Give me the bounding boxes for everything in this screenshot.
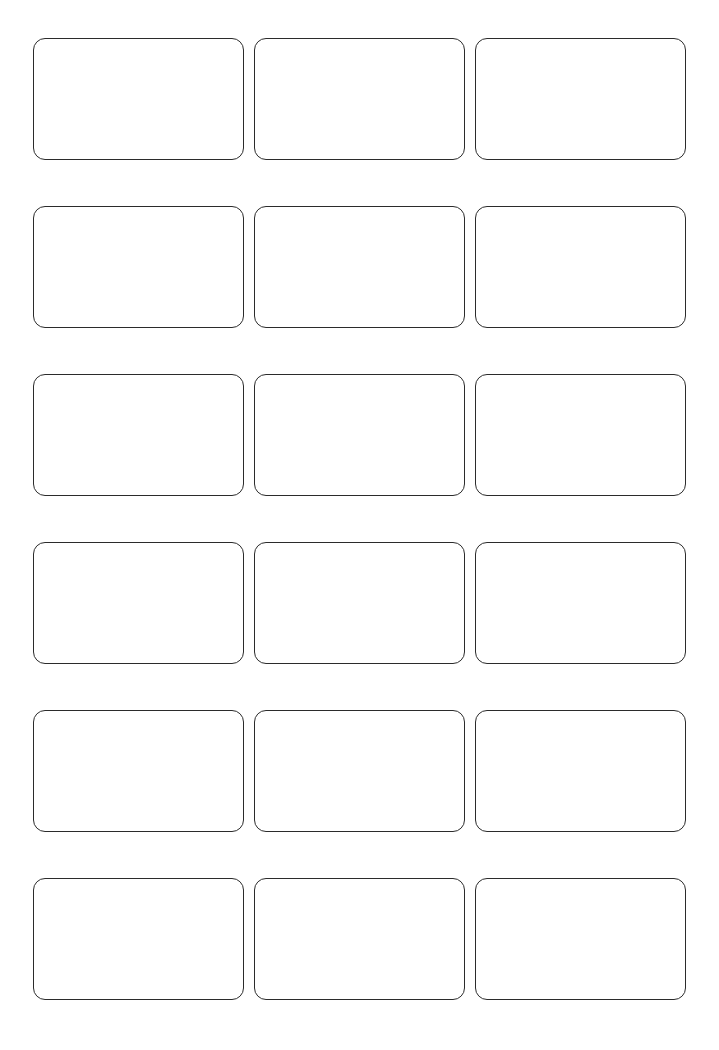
card[interactable] (475, 878, 686, 1000)
card-content (34, 879, 243, 999)
card[interactable] (475, 38, 686, 160)
card-content (255, 39, 464, 159)
card-content (476, 711, 685, 831)
card-content (255, 543, 464, 663)
card[interactable] (33, 206, 244, 328)
card-content (34, 543, 243, 663)
card-sheet (0, 0, 719, 1050)
card[interactable] (475, 542, 686, 664)
card[interactable] (254, 374, 465, 496)
card-content (255, 207, 464, 327)
card[interactable] (33, 542, 244, 664)
card[interactable] (254, 38, 465, 160)
card-content (476, 207, 685, 327)
card-grid (33, 38, 681, 1000)
card[interactable] (33, 38, 244, 160)
card[interactable] (33, 374, 244, 496)
card-content (476, 879, 685, 999)
card-content (34, 375, 243, 495)
card[interactable] (254, 710, 465, 832)
card-content (476, 543, 685, 663)
card[interactable] (475, 374, 686, 496)
card[interactable] (33, 710, 244, 832)
card-content (34, 711, 243, 831)
card-content (255, 375, 464, 495)
card[interactable] (475, 206, 686, 328)
card[interactable] (254, 206, 465, 328)
card-content (255, 711, 464, 831)
card-content (34, 207, 243, 327)
card[interactable] (254, 542, 465, 664)
card[interactable] (33, 878, 244, 1000)
card[interactable] (475, 710, 686, 832)
card-content (255, 879, 464, 999)
card-content (476, 39, 685, 159)
card-content (34, 39, 243, 159)
card-content (476, 375, 685, 495)
card[interactable] (254, 878, 465, 1000)
